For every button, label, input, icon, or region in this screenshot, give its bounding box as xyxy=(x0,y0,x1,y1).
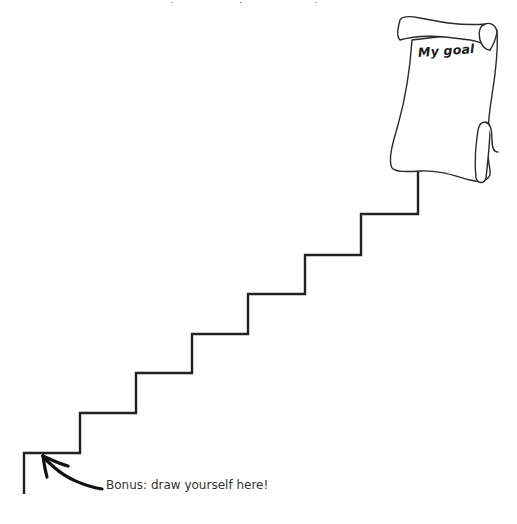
curved-arrow-icon xyxy=(0,0,517,524)
worksheet-canvas: My goal Bonus: draw yourself here! xyxy=(0,0,517,524)
bonus-label: Bonus: draw yourself here! xyxy=(106,478,268,492)
